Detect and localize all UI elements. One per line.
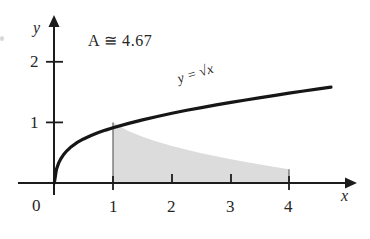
x-tick-label-3: 3 — [226, 198, 235, 215]
shaded-area-region — [113, 122, 289, 183]
x-axis-label: x — [341, 188, 348, 204]
y-axis-arrowhead — [49, 15, 60, 27]
x-tick-label-1: 1 — [109, 198, 118, 215]
y-tick-label-2: 2 — [30, 53, 39, 70]
area-value-annotation: A ≅ 4.67 — [88, 33, 152, 49]
math-figure-sqrt-area: y x 0 1 2 1 2 3 4 A ≅ 4.67 y = √x — [0, 0, 370, 239]
x-tick-label-4: 4 — [284, 198, 293, 215]
plot-canvas — [0, 0, 370, 239]
y-tick-label-1: 1 — [30, 114, 39, 131]
x-tick-label-2: 2 — [167, 198, 176, 215]
origin-tick-label: 0 — [32, 197, 41, 214]
y-axis-label: y — [33, 20, 40, 36]
